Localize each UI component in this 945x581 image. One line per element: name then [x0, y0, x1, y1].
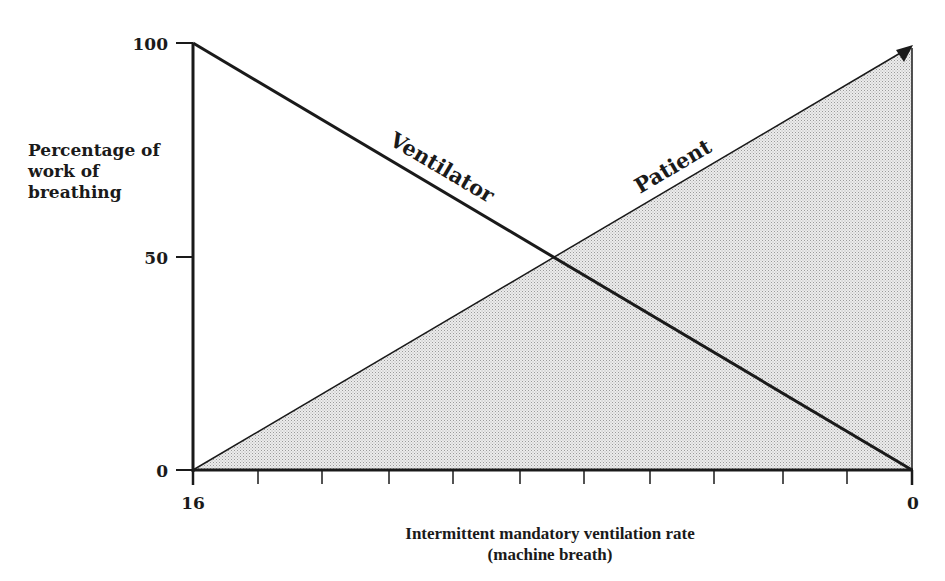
x-axis-title-line: (machine breath): [250, 544, 850, 565]
y-tick-label-0: 0: [156, 461, 168, 481]
y-axis-title: Percentage of work of breathing: [28, 140, 160, 203]
x-tick-label-0: 0: [907, 493, 919, 513]
y-axis-title-line: Percentage of: [28, 140, 160, 161]
x-ticks: [193, 470, 912, 485]
y-tick-label-100: 100: [133, 34, 169, 54]
y-tick-label-50: 50: [144, 248, 168, 268]
x-axis-title-line: Intermittent mandatory ventilation rate: [250, 523, 850, 544]
x-tick-label-16: 16: [181, 493, 205, 513]
chart-canvas: Ventilator Patient 100 50 0 16 0: [0, 0, 945, 581]
y-axis-title-line: work of: [28, 161, 160, 182]
x-axis-title: Intermittent mandatory ventilation rate …: [250, 523, 850, 565]
y-axis-title-line: breathing: [28, 182, 160, 203]
